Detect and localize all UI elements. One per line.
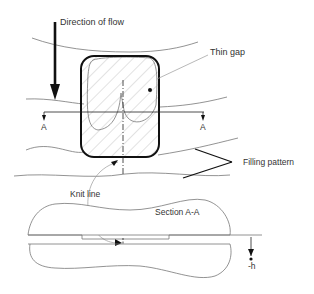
section-marker-left: A: [41, 123, 47, 132]
insert-plate: [81, 56, 159, 157]
filling-pattern-leaders: [183, 149, 232, 178]
thickness-label: -h: [248, 262, 256, 271]
section-marker-right: A: [200, 123, 206, 132]
injection-molding-diagram: [0, 0, 314, 294]
direction-of-flow-label: Direction of flow: [60, 18, 124, 27]
thin-gap-leader: [157, 55, 208, 79]
flow-direction-arrow: [50, 22, 60, 100]
thickness-indicator: [248, 237, 254, 261]
section-title-label: Section A-A: [155, 208, 199, 217]
thin-gap-dot: [148, 88, 152, 92]
section-a-a-profile: [28, 199, 262, 277]
knit-line-label: Knit line: [70, 190, 100, 199]
thin-gap-label: Thin gap: [210, 48, 245, 57]
filling-pattern-label: Filling pattern: [243, 158, 294, 167]
